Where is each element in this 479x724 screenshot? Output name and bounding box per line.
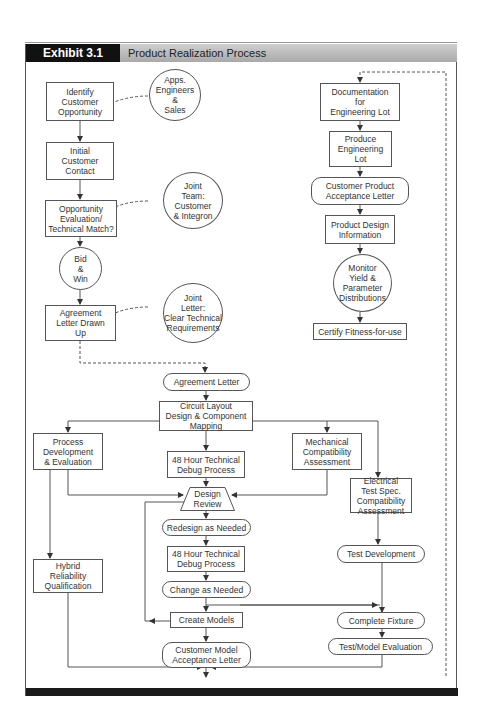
identify-customer-opportunity-box: Identify Customer Opportunity	[46, 82, 114, 121]
bottom-bar	[26, 688, 458, 696]
redesign-as-needed-pill: Redesign as Needed	[162, 519, 251, 536]
mechanical-compatibility-box: Mechanical Compatibility Assessment	[292, 433, 362, 470]
create-models-box: Create Models	[170, 612, 243, 628]
electrical-test-spec-box: Electrical Test Spec. Compatibility Asse…	[350, 478, 412, 513]
agreement-letter-drawn-up-box: Agreement Letter Drawn Up	[45, 305, 116, 341]
customer-product-acceptance-letter-pill: Customer Product Acceptance Letter	[311, 177, 409, 205]
test-model-evaluation-pill: Test/Model Evaluation	[328, 638, 433, 655]
debug-process-box-2: 48 Hour Technical Debug Process	[167, 546, 245, 572]
produce-engineering-lot-box: Produce Engineering Lot	[329, 131, 392, 167]
bid-win-circle: Bid & Win	[59, 247, 102, 290]
change-as-needed-pill: Change as Needed	[162, 581, 251, 598]
certify-fitness-box: Certify Fitness-for-use	[313, 323, 407, 340]
product-design-information-box: Product Design Information	[325, 215, 395, 244]
documentation-engineering-lot-box: Documentation for Engineering Lot	[320, 83, 400, 121]
debug-process-box-1: 48 Hour Technical Debug Process	[167, 451, 245, 478]
complete-fixture-pill: Complete Fixture	[337, 612, 425, 629]
customer-model-acceptance-pill: Customer Model Acceptance Letter	[162, 642, 251, 668]
apps-engineers-sales-circle: Apps. Engineers & Sales	[149, 69, 201, 121]
test-development-pill: Test Development	[337, 545, 425, 563]
hybrid-reliability-box: Hybrid Reliability Qualification	[33, 559, 103, 593]
agreement-letter-pill: Agreement Letter	[163, 373, 250, 391]
opportunity-evaluation-box: Opportunity Evaluation/ Technical Match?	[45, 200, 117, 237]
joint-team-circle: Joint Team: Customer & Integron	[163, 172, 223, 229]
joint-letter-circle: Joint Letter: Clear Technical Requiremen…	[163, 283, 223, 343]
circuit-layout-box: Circuit Layout Design & Component Mappin…	[159, 401, 253, 431]
design-review-label: Design Review	[194, 489, 222, 509]
initial-customer-contact-box: Initial Customer Contact	[46, 142, 114, 180]
monitor-yield-circle: Monitor Yield & Parameter Distributions	[333, 254, 392, 312]
process-development-box: Process Development & Evaluation	[33, 433, 103, 470]
design-review-trapezoid: Design Review	[180, 487, 235, 511]
